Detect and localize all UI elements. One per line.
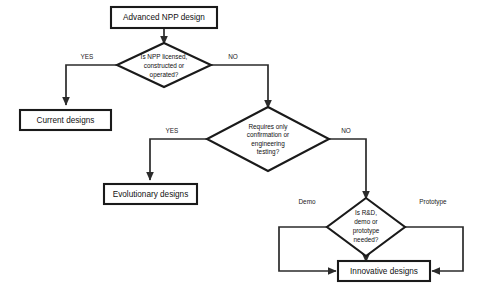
node-evolutionary-designs[interactable]: Evolutionary designs: [104, 184, 197, 204]
node-decision1-label-line1: Is NPP licensed,: [141, 53, 188, 60]
node-innovative-designs[interactable]: Innovative designs: [338, 261, 430, 281]
node-decision2-label-line3: engineering: [251, 140, 285, 148]
node-decision3-label-line2: demo or: [354, 218, 378, 225]
node-current-designs-label: Current designs: [37, 116, 95, 125]
node-advanced-npp-design-label: Advanced NPP design: [123, 13, 205, 22]
edge-label-decision1-yes: YES: [81, 53, 94, 60]
edge-decision2-yes-to-evolutionary: [150, 139, 208, 180]
flowchart-canvas: Advanced NPP design Is NPP licensed, con…: [0, 0, 484, 300]
node-decision3-label-line1: Is R&D,: [355, 209, 377, 216]
node-current-designs[interactable]: Current designs: [20, 110, 111, 130]
node-decision1-label-line2: constructed or: [144, 62, 185, 69]
node-decision2-label-line2: confirmation or: [247, 131, 290, 138]
node-decision2-label-line1: Requires only: [248, 123, 288, 131]
edge-label-decision3-prototype: Prototype: [419, 198, 447, 206]
edge-decision1-yes-to-current: [66, 65, 118, 105]
edge-decision2-no-to-decision3: [328, 139, 366, 199]
flowchart-svg: Advanced NPP design Is NPP licensed, con…: [0, 0, 484, 300]
edge-decision3-demo-to-innovative: [279, 227, 336, 271]
node-decision-rd-demo-prototype[interactable]: Is R&D, demo or prototype needed?: [327, 198, 405, 256]
node-innovative-designs-label: Innovative designs: [350, 267, 418, 276]
node-decision2-label-line4: testing?: [257, 148, 280, 156]
edge-label-decision1-no: NO: [228, 53, 238, 60]
node-advanced-npp-design[interactable]: Advanced NPP design: [111, 7, 217, 28]
node-decision-npp-licensed[interactable]: Is NPP licensed, constructed or operated…: [117, 43, 211, 87]
node-decision-confirmation-testing[interactable]: Requires only confirmation or engineerin…: [207, 107, 329, 171]
edge-label-decision3-demo: Demo: [298, 198, 315, 205]
node-evolutionary-designs-label: Evolutionary designs: [113, 190, 189, 199]
edge-label-decision2-yes: YES: [166, 127, 179, 134]
node-decision3-label-line3: prototype: [353, 227, 380, 235]
edge-decision1-no-to-decision2: [210, 65, 268, 108]
node-decision1-label-line3: operated?: [150, 71, 179, 79]
edge-label-decision2-no: NO: [341, 127, 351, 134]
node-decision3-label-line4: needed?: [354, 236, 379, 243]
